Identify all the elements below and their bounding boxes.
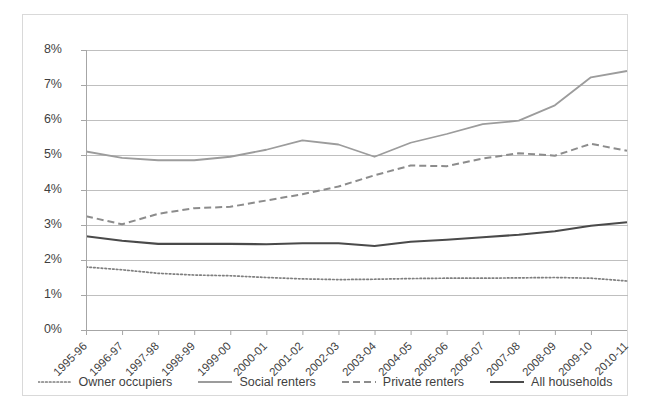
legend-item-label: Private renters <box>383 375 464 389</box>
legend-line-swatch-icon <box>490 377 524 387</box>
legend-item-label: All households <box>531 375 612 389</box>
legend-line-swatch-icon <box>198 377 232 387</box>
legend-item-label: Social renters <box>239 375 315 389</box>
legend-line-swatch-icon <box>38 377 72 387</box>
chart-page: 0%1%2%3%4%5%6%7%8% 1995-961996-971997-98… <box>0 0 652 411</box>
legend-line-swatch-icon <box>342 377 376 387</box>
legend-item[interactable]: All households <box>490 375 612 389</box>
x-axis-labels: 1995-961996-971997-981998-991999-002000-… <box>0 0 652 411</box>
legend-item[interactable]: Private renters <box>342 375 464 389</box>
chart-legend: Owner occupiersSocial rentersPrivate ren… <box>23 369 627 395</box>
legend-item[interactable]: Social renters <box>198 375 315 389</box>
legend-item-label: Owner occupiers <box>79 375 173 389</box>
legend-item[interactable]: Owner occupiers <box>38 375 173 389</box>
